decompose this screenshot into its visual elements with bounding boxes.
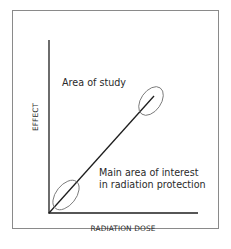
protection-label-line2: in radiation protection <box>99 179 206 190</box>
x-axis-label: RADIATION DOSE <box>91 224 156 233</box>
diagram-frame <box>13 11 219 229</box>
protection-label-line1: Main area of interest <box>99 167 199 178</box>
area-of-study-label: Area of study <box>62 77 126 88</box>
y-axis-label: EFFECT <box>31 103 40 132</box>
dose-effect-diagram: Area of study Main area of interest in r… <box>0 0 231 249</box>
